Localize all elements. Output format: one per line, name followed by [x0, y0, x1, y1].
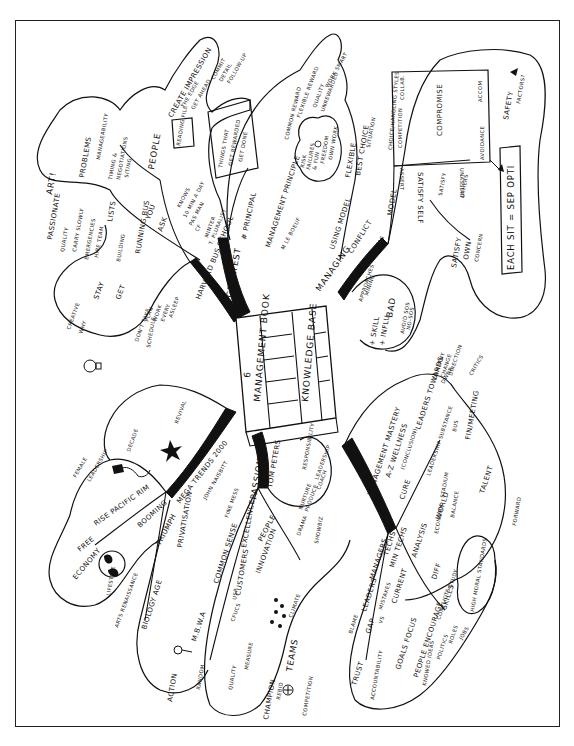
label-satisfy-top: SATISFY — [437, 172, 447, 197]
label-accommodate: ACCOM — [477, 81, 483, 102]
label-passionate: PASSIONATE — [46, 192, 62, 240]
label-mistakes: MISTAKES — [377, 581, 392, 610]
label-using-model: USING MODEL — [328, 197, 352, 251]
label-m-le-boeuf: M LE BOEUF — [280, 216, 302, 250]
label-action: ACTION — [166, 672, 179, 702]
label-cfucs: CFUCS — [229, 602, 241, 622]
label-competition: COMPETITION — [397, 108, 403, 148]
label-mbwa: M.B.W.A — [190, 610, 207, 642]
label-roles: ROLES — [447, 624, 459, 644]
label-teams: TEAMS — [284, 638, 300, 673]
label-accountability: ACCOUNTABILITY — [369, 649, 384, 700]
label-arts-renaissance: ARTS RENAISSANCE — [113, 572, 139, 629]
label-reward-own-work: OWN WORK — [327, 125, 339, 160]
label-balance: BALANCE — [449, 490, 460, 518]
lightbulb-icon — [84, 360, 101, 372]
label-analysis: ANALYSIS — [410, 522, 429, 559]
label-people: PEOPLE — [146, 132, 162, 170]
label-management-principle: MANAGEMENT PRINCIPLE — [264, 154, 301, 248]
label-leadership-m: LEADERSHIP — [86, 448, 109, 483]
label-compromise: COMPROMISE — [436, 84, 444, 136]
label-fine-mess: FINE MESS — [223, 487, 239, 518]
label-get: GET — [114, 283, 127, 300]
label-assert: ASSERT — [399, 168, 405, 191]
label-problems: PROBLEMS — [78, 136, 93, 178]
mind-map: MANAGEMENT BOOK 6 KNOWLEDGE BASE GREATES… — [0, 0, 574, 746]
label-bad: BAD — [384, 296, 397, 318]
label-creative: CREATIVE — [65, 302, 80, 331]
label-drama: DRAMA — [295, 515, 308, 537]
label-situation: SITUATION — [365, 116, 376, 148]
person-icon — [174, 646, 192, 654]
label-female: FEMALE — [72, 456, 89, 479]
globe-icon — [99, 551, 125, 577]
label-things-3: GET DONE — [237, 131, 248, 162]
mastery-labels: MANAGEMENT MASTERY A-Z WELLNESS (CONCLUS… — [347, 344, 522, 700]
label-jobs: JOBS — [457, 625, 471, 641]
label-bus: BUS — [451, 419, 459, 432]
star-icon — [160, 440, 182, 462]
label-blame: BLAME — [347, 614, 359, 635]
label-usp: USP — [231, 588, 239, 600]
label-cf: CF — [194, 223, 203, 232]
label-siting: SITING — [123, 158, 132, 179]
label-showbiz: SHOWBIZ — [313, 516, 324, 545]
label-factors: FACTORS? — [515, 74, 526, 104]
label-manageability: MANAGEABILITY — [95, 112, 109, 160]
label-politics: POLITICS — [435, 633, 449, 660]
label-trust: TRUST — [350, 660, 366, 687]
label-leaders: LEADERS — [360, 577, 378, 613]
label-safety: SAFETY — [502, 90, 515, 120]
label-critics: CRITICS — [468, 353, 485, 376]
label-each-sit: EACH SIT = SEP OPTI — [506, 165, 516, 270]
label-concern: CONCERN — [473, 233, 484, 262]
label-why: WHY — [77, 319, 87, 334]
handshake-icon — [112, 464, 150, 477]
label-excellence: EXCELLENCE — [240, 499, 256, 548]
label-responsibility: RESPONSIBILITY — [301, 422, 315, 470]
crowd-icon — [270, 598, 286, 628]
label-cure: CURE — [398, 478, 412, 500]
label-common-sense: COMMON SENSE — [212, 522, 239, 585]
label-satisfy-self: SATISFY SELF — [416, 172, 424, 224]
label-art: ART! — [44, 171, 58, 195]
label-forward: FORWARD — [511, 496, 522, 526]
label-principal: # PRINCIPAL — [240, 192, 258, 241]
label-talent: TALENT — [478, 464, 495, 495]
label-quality: QUALITY — [59, 226, 69, 252]
label-fin-meeting: FIN/MEETING — [464, 390, 481, 441]
label-economy-m: ECONOMY — [433, 504, 444, 534]
label-decade: DECADE — [125, 428, 139, 453]
center-marker: 6 — [242, 371, 253, 379]
label-diff: DIFF — [430, 562, 443, 581]
central-book: MANAGEMENT BOOK 6 KNOWLEDGE BASE — [236, 293, 338, 446]
label-lists: LISTS — [106, 200, 118, 222]
label-revival: REVIVAL — [173, 399, 187, 424]
label-ask: ASK — [156, 216, 169, 233]
label-work-smart: WORK SMART — [324, 51, 349, 89]
outline-mbwa — [137, 500, 208, 693]
greatest-labels: GREATEST HARVARD BUS SCHOOL T. PLURALIST… — [44, 46, 248, 348]
target-icon — [283, 685, 293, 695]
label-current: CURRENT — [390, 567, 409, 604]
label-measure: MEASURE — [243, 641, 254, 670]
label-high-moral: HIGH MORAL STANDARDS — [469, 537, 488, 612]
connector — [430, 200, 470, 240]
managing-labels: MANAGING USING MODEL FLEXIBLE BEST CHOIC… — [313, 71, 526, 346]
label-vs: VS — [377, 615, 385, 624]
label-economy: ECONOMY — [71, 546, 102, 581]
label-avoidance: AVOIDANCE — [479, 126, 485, 160]
label-stay: STAY — [92, 280, 106, 300]
label-hire-team: HIRE TEAM — [93, 226, 104, 259]
label-own: OWN — [462, 240, 473, 260]
label-quality-p2: QUALITY — [227, 664, 237, 690]
label-goals-focus: GOALS FOCUS — [394, 616, 419, 671]
clock-icon — [315, 141, 321, 147]
label-carry-slowly: CARRY SLOWLY — [71, 207, 85, 252]
label-competition-p: COMPETITION — [301, 675, 314, 716]
label-building: BUILDING — [115, 233, 126, 262]
label-satisfy: SATISFY — [450, 236, 463, 268]
label-collaborate: COLLAB. — [399, 75, 405, 100]
megatrends-labels: MEGA TRENDS 2000 JOHN NAISBITT REVIVAL F… — [71, 399, 229, 630]
